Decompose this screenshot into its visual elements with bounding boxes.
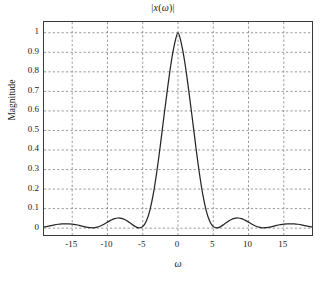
chart-title-bar-right: | [172,2,174,13]
y-tick-label: 0.3 [3,164,39,173]
figure-container: |x(ω)| 00.10.20.30.40.50.60.70.80.91 -15… [0,0,326,281]
x-tick-label: 15 [268,240,298,249]
plot-area [43,21,313,236]
y-tick-label: 1 [3,27,39,36]
y-tick-label: 0.2 [3,184,39,193]
y-tick-label: 0.4 [3,144,39,153]
y-tick-label: 0 [3,223,39,232]
y-tick-label: 0.1 [3,203,39,212]
y-axis-tick-labels: 00.10.20.30.40.50.60.70.80.91 [0,21,39,236]
x-tick-label: 5 [197,240,227,249]
x-tick-label: 0 [162,240,192,249]
chart-title: |x(ω)| [0,2,326,13]
x-tick-label: -15 [56,240,86,249]
x-axis-tick-labels: -15-10-5051015 [43,240,313,254]
x-tick-label: -5 [127,240,157,249]
chart-title-omega: ω [162,2,169,13]
x-axis-label: ω [43,258,313,269]
x-tick-label: -10 [91,240,121,249]
vertical-gridlines [72,22,284,235]
y-axis-label: Magnitude [7,55,17,145]
plot-canvas [44,22,312,235]
x-tick-label: 10 [233,240,263,249]
